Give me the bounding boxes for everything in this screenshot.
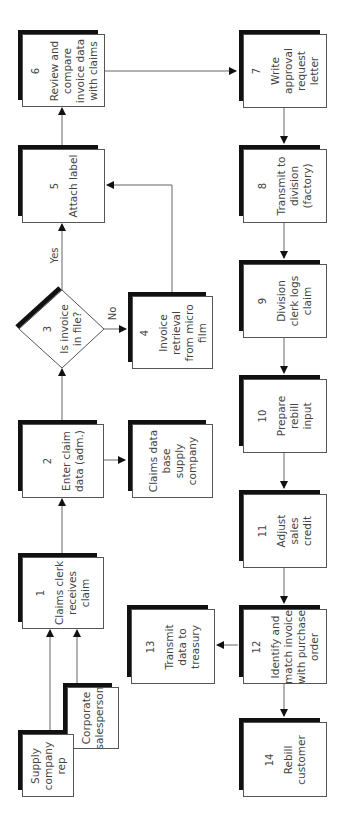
node-number: 1 bbox=[34, 561, 47, 625]
node-label: Transmit data to treasury bbox=[163, 624, 202, 669]
node-label: Write approval request letter bbox=[269, 48, 321, 94]
node-label: Claims data base supply company bbox=[147, 430, 199, 492]
process-box-6: 6Review and compare invoice data with cl… bbox=[22, 34, 105, 107]
node-label: Prepare rebill input bbox=[275, 396, 314, 436]
node-label: Invoice retrieval from micro film bbox=[156, 304, 208, 361]
node-label: Rebill customer bbox=[282, 735, 308, 784]
node-number: 5 bbox=[48, 155, 61, 218]
node-number: 12 bbox=[250, 610, 263, 684]
process-box-1: 1Claims clerk receives claim bbox=[22, 557, 104, 629]
process-box-13: 13Transmit data to treasury bbox=[131, 609, 215, 684]
source-box-corporate-salesperson: Corporate salesperson bbox=[67, 687, 119, 749]
data-box-claims-database: Claims data base supply company bbox=[132, 424, 213, 498]
process-box-10: 10Prepare rebill input bbox=[243, 379, 327, 453]
node-number: 10 bbox=[256, 396, 269, 436]
process-box-9: 9Division clerk logs claim bbox=[243, 264, 327, 338]
node-label: Identify and match invoice with purchase… bbox=[269, 610, 321, 684]
node-label: Review and compare invoice data with cla… bbox=[47, 38, 99, 102]
node-number: 8 bbox=[256, 157, 269, 216]
node-label: Attach label bbox=[67, 155, 80, 218]
process-box-11: 11Adjust sales credit bbox=[243, 494, 327, 568]
node-label: Corporate salesperson bbox=[80, 687, 106, 750]
node-label: Adjust sales credit bbox=[275, 515, 314, 548]
process-box-2: 2Enter claim data (adm.) bbox=[22, 424, 104, 498]
node-label: Supply company rep bbox=[29, 741, 68, 789]
node-label: Transmit to division (factory) bbox=[275, 157, 314, 216]
node-number: 9 bbox=[256, 276, 269, 326]
node-number: 11 bbox=[256, 515, 269, 548]
process-box-14: 14Rebill customer bbox=[243, 722, 327, 797]
source-box-supply-company-rep: Supply company rep bbox=[22, 734, 74, 797]
node-number: 13 bbox=[144, 624, 157, 669]
node-number: 6 bbox=[28, 38, 41, 102]
node-label: Division clerk logs claim bbox=[275, 276, 314, 326]
claims-process-flowchart: 3 Is invoice in file? Yes No 6Review and… bbox=[0, 0, 339, 822]
node-number: 2 bbox=[41, 430, 54, 492]
node-number: 7 bbox=[250, 48, 263, 94]
node-number: 14 bbox=[263, 735, 276, 784]
node-number: 4 bbox=[137, 304, 150, 361]
process-box-5: 5Attach label bbox=[22, 149, 105, 223]
process-box-7: 7Write approval request letter bbox=[243, 34, 327, 108]
process-box-8: 8Transmit to division (factory) bbox=[243, 149, 327, 223]
process-box-4: 4Invoice retrieval from micro film bbox=[132, 296, 213, 369]
process-box-12: 12Identify and match invoice with purcha… bbox=[243, 609, 327, 684]
node-label: Enter claim data (adm.) bbox=[60, 430, 86, 492]
node-label: Claims clerk receives claim bbox=[53, 561, 92, 625]
